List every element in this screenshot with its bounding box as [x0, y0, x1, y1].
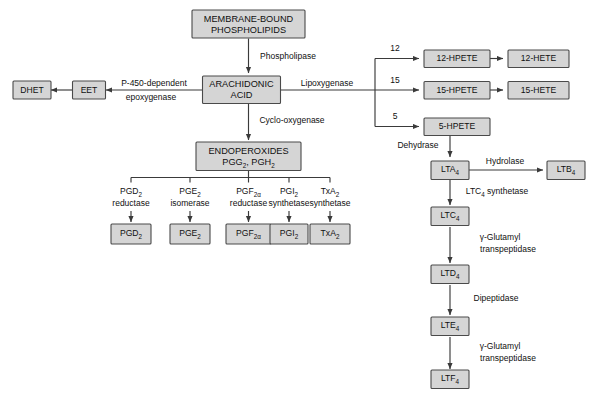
enzyme-hydrolase: Hydrolase — [486, 156, 525, 166]
hete-15-label: 15-HETE — [521, 85, 557, 95]
node-endoperoxides: ENDOPEROXIDES PGG2, PGH2 — [196, 142, 301, 171]
enzyme-phospholipase: Phospholipase — [260, 51, 316, 61]
node-lte4: LTE4 — [431, 317, 469, 336]
pgf2alpha-reductase-line1: PGF2α — [236, 186, 261, 197]
membrane-phospholipids-line1: MEMBRANE-BOUND — [204, 14, 294, 24]
branch-number-5: 5 — [393, 111, 398, 121]
endoperoxides-line1: ENDOPEROXIDES — [208, 146, 288, 156]
enzyme-glutamyl-transpeptidase-1: γ-Glutamyl transpeptidase — [480, 232, 536, 254]
hpete-15-label: 15-HPETE — [436, 85, 477, 95]
pgi2-synthetase-line1: PGI2 — [280, 186, 299, 197]
arachidonic-acid-line1: ARACHIDONIC — [209, 79, 274, 89]
txa2-synthetase-line2: synthetase — [309, 198, 350, 208]
enzyme-pge2-isomerase: PGE2 isomerase — [170, 186, 209, 208]
pgd2-reductase-line1: PGD2 — [120, 186, 142, 197]
dhet-label: DHET — [20, 85, 44, 95]
pge2-isomerase-line2: isomerase — [170, 198, 209, 208]
hete-12-label: 12-HETE — [521, 53, 557, 63]
node-txa2: TxA2 — [310, 224, 350, 244]
enzyme-ltc4-synthetase: LTC4 synthetase — [466, 186, 529, 197]
node-eet: EET — [73, 81, 106, 99]
arachidonic-acid-pathway-diagram: MEMBRANE-BOUND PHOSPHOLIPIDS ARACHIDONIC… — [0, 0, 594, 409]
pgf2alpha-reductase-line2: reductase — [230, 198, 268, 208]
epoxygenase-line2: epoxygenase — [126, 92, 177, 102]
node-pgi2: PGI2 — [270, 224, 308, 244]
node-12-hete: 12-HETE — [508, 50, 569, 68]
node-15-hete: 15-HETE — [508, 82, 569, 100]
txa2-synthetase-line1: TxA2 — [321, 186, 340, 197]
membrane-phospholipids-line2: PHOSPHOLIPIDS — [211, 25, 286, 35]
node-pgd2: PGD2 — [111, 224, 151, 244]
pge2-isomerase-line1: PGE2 — [179, 186, 201, 197]
endoperoxides-line2: PGG2, PGH2 — [222, 157, 275, 168]
node-ltb4: LTB4 — [547, 161, 585, 180]
endoperoxides-pgg2-label: PGG — [222, 157, 242, 167]
glutamyl-transpeptidase-1-line2: transpeptidase — [480, 244, 536, 254]
node-membrane-bound-phospholipids: MEMBRANE-BOUND PHOSPHOLIPIDS — [192, 10, 305, 38]
enzyme-pgd2-reductase: PGD2 reductase — [112, 186, 150, 208]
enzyme-pgi2-synthetase: PGI2 synthetase — [268, 186, 309, 208]
node-pgf2alpha: PGF2α — [226, 224, 271, 244]
enzyme-pgf2alpha-reductase: PGF2α reductase — [230, 186, 268, 208]
node-15-hpete: 15-HPETE — [424, 82, 490, 100]
endoperoxides-pgh2-sub: 2 — [271, 161, 275, 168]
node-ltc4: LTC4 — [431, 207, 469, 226]
glutamyl-transpeptidase-1-line1: γ-Glutamyl — [480, 232, 521, 242]
hpete-12-label: 12-HPETE — [436, 53, 477, 63]
branch-number-12: 12 — [390, 43, 400, 53]
endoperoxides-pgh2-label: PGH — [251, 157, 271, 167]
glutamyl-transpeptidase-2-line1: γ-Glutamyl — [480, 341, 521, 351]
node-pge2: PGE2 — [170, 224, 210, 244]
node-ltf4: LTF4 — [431, 370, 469, 389]
enzyme-txa2-synthetase: TxA2 synthetase — [309, 186, 350, 208]
node-12-hpete: 12-HPETE — [424, 50, 490, 68]
node-5-hpete: 5-HPETE — [424, 118, 490, 136]
pgd2-reductase-line2: reductase — [112, 198, 150, 208]
enzyme-lipoxygenase: Lipoxygenase — [301, 78, 354, 88]
enzyme-cyclo-oxygenase: Cyclo-oxygenase — [259, 115, 324, 125]
enzyme-dipeptidase: Dipeptidase — [474, 293, 519, 303]
hpete-5-label: 5-HPETE — [439, 121, 476, 131]
enzyme-glutamyl-transpeptidase-2: γ-Glutamyl transpeptidase — [480, 341, 536, 363]
glutamyl-transpeptidase-2-line2: transpeptidase — [480, 353, 536, 363]
enzyme-dehydrase: Dehydrase — [397, 140, 438, 150]
branch-number-15: 15 — [390, 75, 400, 85]
node-lta4: LTA4 — [431, 161, 469, 180]
node-ltd4: LTD4 — [431, 265, 469, 284]
pgi2-synthetase-line2: synthetase — [268, 198, 309, 208]
eet-label: EET — [81, 85, 98, 95]
arachidonic-acid-line2: ACID — [231, 90, 253, 100]
epoxygenase-line1: P-450-dependent — [121, 78, 187, 88]
node-arachidonic-acid: ARACHIDONIC ACID — [203, 76, 281, 104]
node-dhet: DHET — [13, 81, 51, 99]
